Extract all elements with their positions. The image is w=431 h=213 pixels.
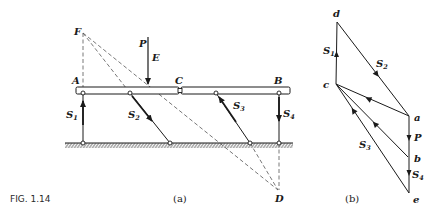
label-S2: S2 (128, 109, 140, 122)
label-S4: S4 (283, 108, 295, 121)
label-e: e (413, 194, 419, 205)
label-P: P (138, 38, 147, 49)
label-S1: S1 (66, 109, 78, 122)
label-E: E (151, 52, 160, 63)
figure-caption: FIG. 1.14 (10, 194, 51, 204)
line-F-E-C-D (83, 33, 278, 190)
label-B: B (273, 75, 282, 86)
panel-a-label: (a) (173, 193, 187, 204)
side-c-b (336, 84, 408, 157)
label-d: d (333, 8, 340, 19)
label-S3: S3 (233, 100, 245, 113)
construction-lines (83, 33, 279, 190)
arrow-S4-icon (407, 170, 412, 176)
label-A: A (71, 75, 80, 86)
hinge-C (178, 89, 182, 93)
line-S3-D (250, 143, 278, 190)
arrow-P-icon (407, 135, 412, 141)
bars (83, 93, 279, 143)
panel-a: F P E A C B D S1 S2 S3 S4 (a) (65, 26, 295, 204)
label-a: a (414, 112, 420, 123)
label-c: c (323, 79, 329, 90)
force-polygon (336, 22, 409, 193)
label-b: b (414, 153, 421, 164)
label-D: D (274, 193, 284, 204)
pins (81, 91, 281, 145)
ground (65, 143, 293, 148)
panel-b-label: (b) (345, 193, 359, 204)
label-S3: S3 (359, 139, 371, 152)
line-F-S2 (83, 33, 130, 93)
label-C: C (175, 75, 183, 86)
label-S1: S1 (323, 45, 335, 58)
beam (76, 87, 290, 94)
label-S4: S4 (412, 169, 424, 182)
label-F: F (73, 26, 82, 37)
label-P: P (413, 132, 422, 143)
figure-canvas: F P E A C B D S1 S2 S3 S4 (a) FIG. 1.14 (0, 0, 431, 213)
label-S2: S2 (376, 58, 388, 71)
panel-b: d c a b e S1 S2 S3 S4 P (b) (323, 8, 424, 205)
arrow-ca-icon (364, 95, 372, 103)
